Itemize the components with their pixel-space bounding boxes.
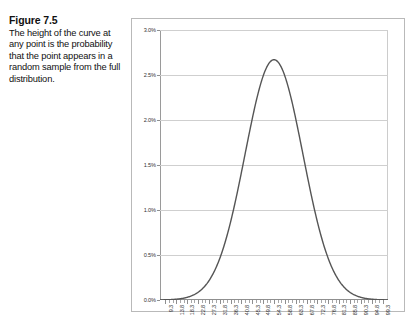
- x-axis-minor-tick: [245, 300, 246, 303]
- x-axis-minor-tick: [332, 300, 333, 303]
- x-axis-tick-label: 31.8: [222, 305, 228, 315]
- x-axis-minor-tick: [288, 300, 289, 303]
- x-axis-minor-tick: [336, 300, 337, 303]
- x-axis-minor-tick: [346, 300, 347, 303]
- y-axis-tick-label: 2.0%: [144, 117, 156, 123]
- x-axis-minor-tick: [325, 300, 326, 303]
- x-axis-minor-tick: [314, 300, 315, 303]
- x-axis-minor-tick: [256, 300, 257, 303]
- x-axis-tick-label: 49.8: [265, 305, 271, 315]
- y-axis-tick-label: 1.0%: [144, 207, 156, 213]
- y-axis-tick-label: 0.0%: [144, 297, 156, 303]
- x-axis-tick-label: 9.3: [168, 305, 174, 312]
- chart-panel: 0.0%0.5%1.0%1.5%2.0%2.5%3.0% 9.313.818.3…: [131, 18, 405, 312]
- x-axis-minor-tick: [278, 300, 279, 303]
- x-axis-tick-mark: [317, 300, 318, 304]
- x-axis-tick-label: 54.3: [276, 305, 282, 315]
- x-axis-minor-tick: [216, 300, 217, 303]
- x-axis-minor-tick: [249, 300, 250, 303]
- y-axis-tick-label: 1.5%: [144, 162, 156, 168]
- y-axis-tick-label: 3.0%: [144, 27, 156, 33]
- x-axis-minor-tick: [173, 300, 174, 303]
- x-axis-minor-tick: [281, 300, 282, 303]
- x-axis-tick-label: 63.3: [298, 305, 304, 315]
- x-axis-tick-label: 90.3: [363, 305, 369, 315]
- x-axis-minor-tick: [234, 300, 235, 303]
- x-axis-tick-mark: [285, 300, 286, 304]
- y-axis-tick-label: 0.5%: [144, 252, 156, 258]
- x-axis-tick-label: 27.3: [211, 305, 217, 315]
- x-axis-tick-mark: [263, 300, 264, 304]
- x-axis-minor-tick: [321, 300, 322, 303]
- x-axis-tick-mark: [339, 300, 340, 304]
- x-axis-tick-mark: [198, 300, 199, 304]
- x-axis-minor-tick: [368, 300, 369, 303]
- x-axis-tick-label: 67.8: [309, 305, 315, 315]
- x-axis-tick-mark: [361, 300, 362, 304]
- x-axis-tick-mark: [252, 300, 253, 304]
- x-axis-tick-mark: [383, 300, 384, 304]
- figure-caption: Figure 7.5 The height of the curve at an…: [9, 14, 125, 85]
- x-axis-tick-mark: [176, 300, 177, 304]
- x-axis-tick-label: 94.8: [374, 305, 380, 315]
- x-axis-tick-label: 22.8: [200, 305, 206, 315]
- x-axis-tick-mark: [187, 300, 188, 304]
- x-axis-minor-tick: [267, 300, 268, 303]
- x-axis-minor-tick: [310, 300, 311, 303]
- x-axis-minor-tick: [238, 300, 239, 303]
- x-axis-minor-tick: [354, 300, 355, 303]
- x-axis-tick-label: 18.3: [189, 305, 195, 315]
- x-axis-tick-label: 58.8: [287, 305, 293, 315]
- x-axis-minor-tick: [223, 300, 224, 303]
- x-axis-minor-tick: [191, 300, 192, 303]
- x-axis-tick-label: 45.3: [255, 305, 261, 315]
- x-axis-minor-tick: [299, 300, 300, 303]
- x-axis-minor-tick: [205, 300, 206, 303]
- x-axis-tick-label: 72.3: [320, 305, 326, 315]
- x-axis-tick-mark: [241, 300, 242, 304]
- x-axis-tick-mark: [296, 300, 297, 304]
- x-axis-minor-tick: [303, 300, 304, 303]
- x-axis-tick-mark: [350, 300, 351, 304]
- x-axis-minor-tick: [227, 300, 228, 303]
- figure-caption-body: The height of the curve at any point is …: [9, 28, 125, 85]
- x-axis-tick-label: 36.3: [233, 305, 239, 315]
- x-axis-minor-tick: [194, 300, 195, 303]
- x-axis-tick-label: 81.3: [341, 305, 347, 315]
- x-axis-minor-tick: [212, 300, 213, 303]
- x-axis-tick-mark: [165, 300, 166, 304]
- x-axis-minor-tick: [375, 300, 376, 303]
- y-axis-tick-label: 2.5%: [144, 72, 156, 78]
- x-axis-tick-mark: [220, 300, 221, 304]
- x-axis-minor-tick: [357, 300, 358, 303]
- x-axis-minor-tick: [202, 300, 203, 303]
- figure-caption-title: Figure 7.5: [9, 14, 125, 26]
- distribution-curve: [160, 30, 388, 300]
- x-axis-tick-label: 13.8: [179, 305, 185, 315]
- plot-area: 0.0%0.5%1.0%1.5%2.0%2.5%3.0% 9.313.818.3…: [160, 30, 388, 300]
- x-axis-minor-tick: [180, 300, 181, 303]
- x-axis-minor-tick: [184, 300, 185, 303]
- x-axis-tick-mark: [307, 300, 308, 304]
- x-axis-minor-tick: [292, 300, 293, 303]
- x-axis-minor-tick: [270, 300, 271, 303]
- x-axis-minor-tick: [343, 300, 344, 303]
- y-axis-tick-mark: [157, 300, 160, 301]
- x-axis-tick-mark: [231, 300, 232, 304]
- x-axis-tick-mark: [209, 300, 210, 304]
- x-axis-tick-mark: [328, 300, 329, 304]
- x-axis-minor-tick: [364, 300, 365, 303]
- x-axis-tick-label: 76.8: [331, 305, 337, 315]
- x-axis-tick-mark: [274, 300, 275, 304]
- x-axis-minor-tick: [379, 300, 380, 303]
- x-axis-tick-label: 40.8: [244, 305, 250, 315]
- x-axis-tick-label: 99.3: [385, 305, 391, 315]
- x-axis-tick-label: 85.8: [352, 305, 358, 315]
- x-axis-tick-mark: [372, 300, 373, 304]
- x-axis-minor-tick: [260, 300, 261, 303]
- x-axis-minor-tick: [169, 300, 170, 303]
